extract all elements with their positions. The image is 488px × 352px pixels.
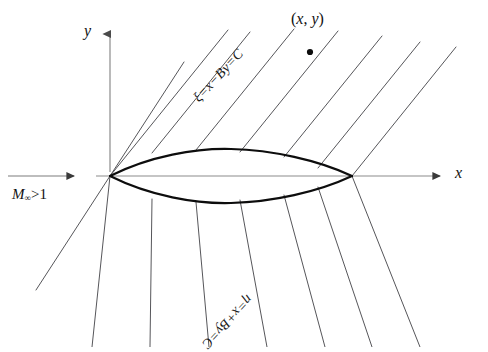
eta-line: [284, 195, 325, 347]
airfoil-upper-surface: [110, 149, 352, 176]
xi-line: [240, 31, 338, 152]
mach-relation: >1: [31, 186, 47, 202]
eta-line: [352, 176, 420, 347]
eta-line: [92, 176, 110, 347]
xi-line: [318, 42, 420, 168]
y-axis-label: y: [84, 22, 91, 40]
xi-line: [352, 47, 456, 176]
eta-line: [240, 200, 267, 347]
freestream-mach-label: M∞>1: [12, 186, 47, 203]
xi-line: [110, 30, 228, 176]
eta-line: [150, 199, 152, 347]
airfoil-lower-surface: [110, 176, 352, 203]
point-close-paren: ): [319, 10, 324, 27]
eta-line: [36, 176, 110, 290]
xi-line: [110, 62, 184, 176]
mach-symbol: M: [12, 186, 25, 202]
x-axis-label: x: [455, 164, 462, 182]
field-point-dot: [307, 49, 313, 55]
eta-line: [318, 187, 372, 347]
field-point-label: (x, y): [291, 10, 324, 28]
eta-line: [196, 202, 209, 347]
xi-line: [284, 36, 382, 157]
point-y-text: y: [311, 10, 318, 27]
